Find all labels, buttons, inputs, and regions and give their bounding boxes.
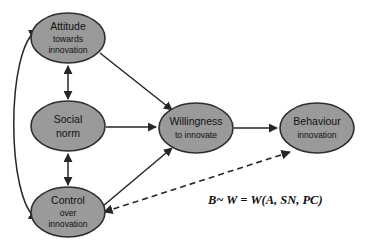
node-willingness-label-line2: to innovate [175, 130, 217, 140]
node-control-label-line1: Control [51, 194, 85, 206]
node-attitude-label-line3: innovation [48, 45, 87, 55]
node-social-norm[interactable]: Social norm [31, 101, 105, 151]
node-attitude-label-line2: towards [53, 34, 83, 44]
node-attitude-label-line1: Attitude [50, 20, 86, 32]
diagram-canvas: Behaviour (dashed, double headed) --> At… [0, 0, 369, 249]
node-behaviour-label-line2: innovation [297, 130, 336, 140]
node-attitude[interactable]: Attitude towards innovation [31, 13, 105, 63]
node-control-label-line3: innovation [48, 219, 87, 229]
model-diagram: Behaviour (dashed, double headed) --> At… [0, 0, 369, 249]
node-willingness-label-line1: Willingness [169, 115, 222, 127]
edge-control-willingness [103, 148, 172, 206]
node-control-label-line2: over [60, 208, 77, 218]
edge-attitude-willingness [100, 53, 172, 110]
node-control[interactable]: Control over innovation [31, 187, 105, 237]
node-social-norm-label-line2: norm [56, 127, 80, 139]
node-behaviour-shape [280, 103, 354, 153]
node-social-norm-label-line1: Social [54, 113, 83, 125]
node-behaviour[interactable]: Behaviour innovation [280, 103, 354, 153]
formula-annotation: B~ W = W(A, SN, PC) [207, 193, 323, 207]
node-willingness[interactable]: Willingness to innovate [159, 103, 233, 153]
node-willingness-shape [159, 103, 233, 153]
node-behaviour-label-line1: Behaviour [293, 115, 341, 127]
